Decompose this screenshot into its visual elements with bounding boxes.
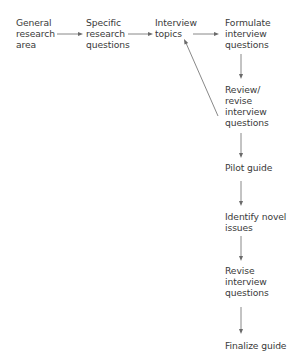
arrow-formulate-to-review [239, 54, 243, 79]
arrow-identify-to-revise [239, 236, 243, 261]
arrow-revise-to-finalize [239, 307, 243, 334]
arrow-pilot-to-identify [239, 181, 243, 206]
arrow-general-to-specific [57, 32, 83, 36]
arrow-specific-to-topics [128, 32, 153, 36]
arrows-layer [0, 0, 298, 360]
arrow-topics-to-formulate [193, 32, 219, 36]
arrow-review-to-pilot [239, 133, 243, 158]
arrow-review-to-topics [184, 39, 218, 116]
